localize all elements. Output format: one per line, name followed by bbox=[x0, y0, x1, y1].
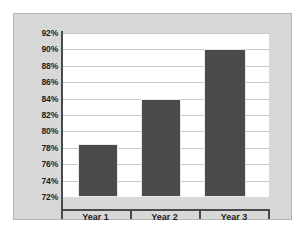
y-tick-label-78: 78% bbox=[42, 143, 58, 153]
gridline-92 bbox=[62, 33, 269, 34]
y-tick-label-82: 82% bbox=[42, 110, 58, 120]
y-tick-label-76: 76% bbox=[42, 159, 58, 169]
chart-frame: 92% 90% 88% 86% 84% 82% 80% 78% 76% 74% … bbox=[13, 13, 292, 220]
y-axis-labels: 92% 90% 88% 86% 84% 82% 80% 78% 76% 74% … bbox=[14, 14, 58, 219]
y-tick-label-74: 74% bbox=[42, 176, 58, 186]
y-tick-label-80: 80% bbox=[42, 126, 58, 136]
y-tick-label-90: 90% bbox=[42, 44, 58, 54]
plot-area bbox=[62, 33, 269, 197]
y-tick-label-72: 72% bbox=[42, 192, 58, 202]
bar-year-1[interactable] bbox=[78, 144, 118, 197]
x-axis-label-year-1: Year 1 bbox=[61, 212, 130, 222]
y-axis-line bbox=[61, 31, 63, 212]
y-tick-label-86: 86% bbox=[42, 77, 58, 87]
x-axis-line bbox=[61, 209, 270, 211]
y-tick-label-88: 88% bbox=[42, 61, 58, 71]
x-axis-label-year-2: Year 2 bbox=[130, 212, 199, 222]
bar-year-2[interactable] bbox=[141, 99, 181, 197]
y-tick-label-84: 84% bbox=[42, 94, 58, 104]
bar-year-3[interactable] bbox=[204, 49, 246, 197]
x-axis-label-year-3: Year 3 bbox=[199, 212, 269, 222]
y-tick-label-92: 92% bbox=[42, 28, 58, 38]
